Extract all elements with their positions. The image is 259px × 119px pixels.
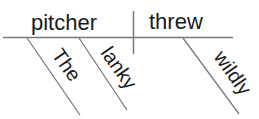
subject-word: pitcher xyxy=(31,12,97,34)
verb-word: threw xyxy=(149,11,203,33)
sentence-diagram: pitcher threw The lanky wildly xyxy=(0,0,259,119)
